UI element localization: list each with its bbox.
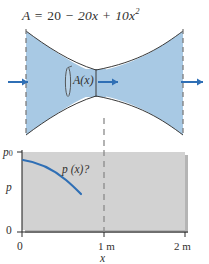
plot-panel-shadow-right: [185, 155, 188, 233]
figure-container: A = 20 − 20x + 10x2: [0, 0, 209, 264]
cross-section-ellipse: [65, 68, 70, 97]
flow-arrow-inlet-icon: [8, 79, 28, 86]
y-axis-p-label: p: [6, 181, 12, 193]
y-axis-zero-label: 0: [6, 224, 12, 236]
flow-arrow-outlet-icon: [181, 79, 203, 86]
x-axis-tick-1m: 1 m: [98, 240, 115, 252]
pressure-curve-label: p (x)?: [62, 163, 89, 175]
plot-group: [17, 150, 188, 237]
figure-svg: [0, 0, 209, 264]
area-label: A(x): [73, 73, 94, 88]
x-axis-tick-0: 0: [17, 240, 23, 252]
x-axis-tick-2m: 2 m: [174, 240, 191, 252]
x-axis-label: x: [100, 252, 105, 264]
nozzle-group: [8, 29, 203, 150]
y-axis-p0-label: p0: [3, 146, 13, 158]
